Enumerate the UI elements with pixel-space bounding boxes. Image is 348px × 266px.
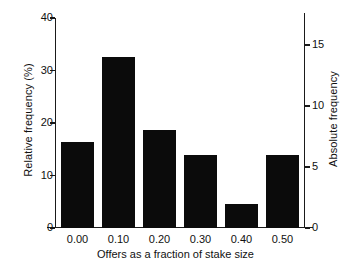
right-tick-label: 10 bbox=[312, 100, 348, 111]
bar bbox=[225, 204, 259, 228]
left-tick-label: 10 bbox=[13, 170, 53, 181]
x-tick-label: 0.30 bbox=[177, 234, 223, 245]
right-tick-label: 0 bbox=[312, 222, 348, 233]
left-tick-label: 30 bbox=[13, 65, 53, 76]
right-tick-label: 5 bbox=[312, 161, 348, 172]
plot-area: 010203040 051015 0.000.100.200.300.400.5… bbox=[55, 18, 305, 228]
bar bbox=[143, 130, 177, 228]
right-tick-mark bbox=[305, 105, 310, 106]
bar bbox=[184, 155, 218, 228]
left-axis-spine bbox=[55, 18, 56, 228]
x-tick-label: 0.50 bbox=[259, 234, 305, 245]
left-tick-label: 20 bbox=[13, 117, 53, 128]
x-tick-label: 0.40 bbox=[218, 234, 264, 245]
right-tick-mark bbox=[305, 227, 310, 228]
right-tick-mark bbox=[305, 166, 310, 167]
x-tick-label: 0.10 bbox=[96, 234, 142, 245]
x-tick-label: 0.20 bbox=[137, 234, 183, 245]
chart-figure: Relative frequency (%) Absolute frequenc… bbox=[0, 0, 348, 266]
right-tick-label: 15 bbox=[312, 39, 348, 50]
right-tick-mark bbox=[305, 44, 310, 45]
y-axis-title-right: Absolute frequency bbox=[327, 29, 339, 209]
bar bbox=[61, 142, 95, 228]
x-tick-label: 0.00 bbox=[55, 234, 101, 245]
bar bbox=[102, 57, 136, 228]
x-axis-title: Offers as a fraction of stake size bbox=[48, 248, 303, 260]
left-tick-label: 40 bbox=[13, 12, 53, 23]
bar bbox=[266, 155, 300, 228]
left-tick-label: 0 bbox=[13, 222, 53, 233]
